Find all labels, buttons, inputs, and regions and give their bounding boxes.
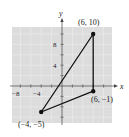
point-6-neg1 [91,89,95,93]
point-neg4-neg5 [39,110,43,114]
tick-label-x-neg4: −4 [33,90,41,98]
tick-label-x-neg8: −8 [12,90,20,98]
x-axis-label: x [119,82,124,91]
y-axis-label: y [58,9,63,18]
point-label-6-10: (6, 10) [78,18,100,27]
triangle-plot: y x 8 4 −8 −4 (6, 10) (6, −1) (−4, −5) [0,0,129,137]
y-axis-arrow-icon [60,18,63,22]
tick-label-y-8: 8 [53,41,57,49]
point-6-10 [91,32,95,36]
tick-label-y-4: 4 [53,62,57,70]
point-label-neg4-neg5: (−4, −5) [18,120,45,129]
point-label-6-neg1: (6, −1) [91,95,113,104]
x-axis-arrow-icon [114,84,118,87]
